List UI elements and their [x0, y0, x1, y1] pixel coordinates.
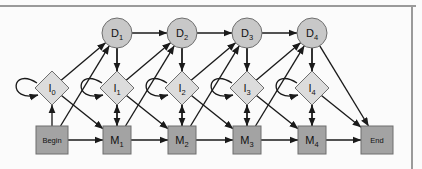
- edge-i2-to-m3: [191, 96, 233, 129]
- terminal-state-label-begin: Begin: [42, 136, 61, 145]
- figure-page: D1D2D3D4I0I1I2I3I4M1M2M3M4BeginEnd: [0, 0, 422, 169]
- edge-i3-to-m4: [256, 96, 298, 129]
- edge-i4-to-end: [321, 96, 361, 128]
- terminal-state-label-end: End: [370, 136, 383, 145]
- edge-i0-to-m1: [61, 96, 103, 129]
- node-layer: D1D2D3D4I0I1I2I3I4M1M2M3M4BeginEnd: [35, 18, 393, 154]
- edge-i3-to-d4: [256, 43, 300, 81]
- self-loop-i0: [16, 78, 38, 96]
- profile-hmm-diagram: D1D2D3D4I0I1I2I3I4M1M2M3M4BeginEnd: [0, 0, 422, 169]
- edge-i2-to-d3: [191, 43, 235, 81]
- edge-i0-to-d1: [61, 43, 105, 81]
- edge-i1-to-m2: [126, 96, 168, 129]
- edge-i1-to-d2: [126, 43, 170, 81]
